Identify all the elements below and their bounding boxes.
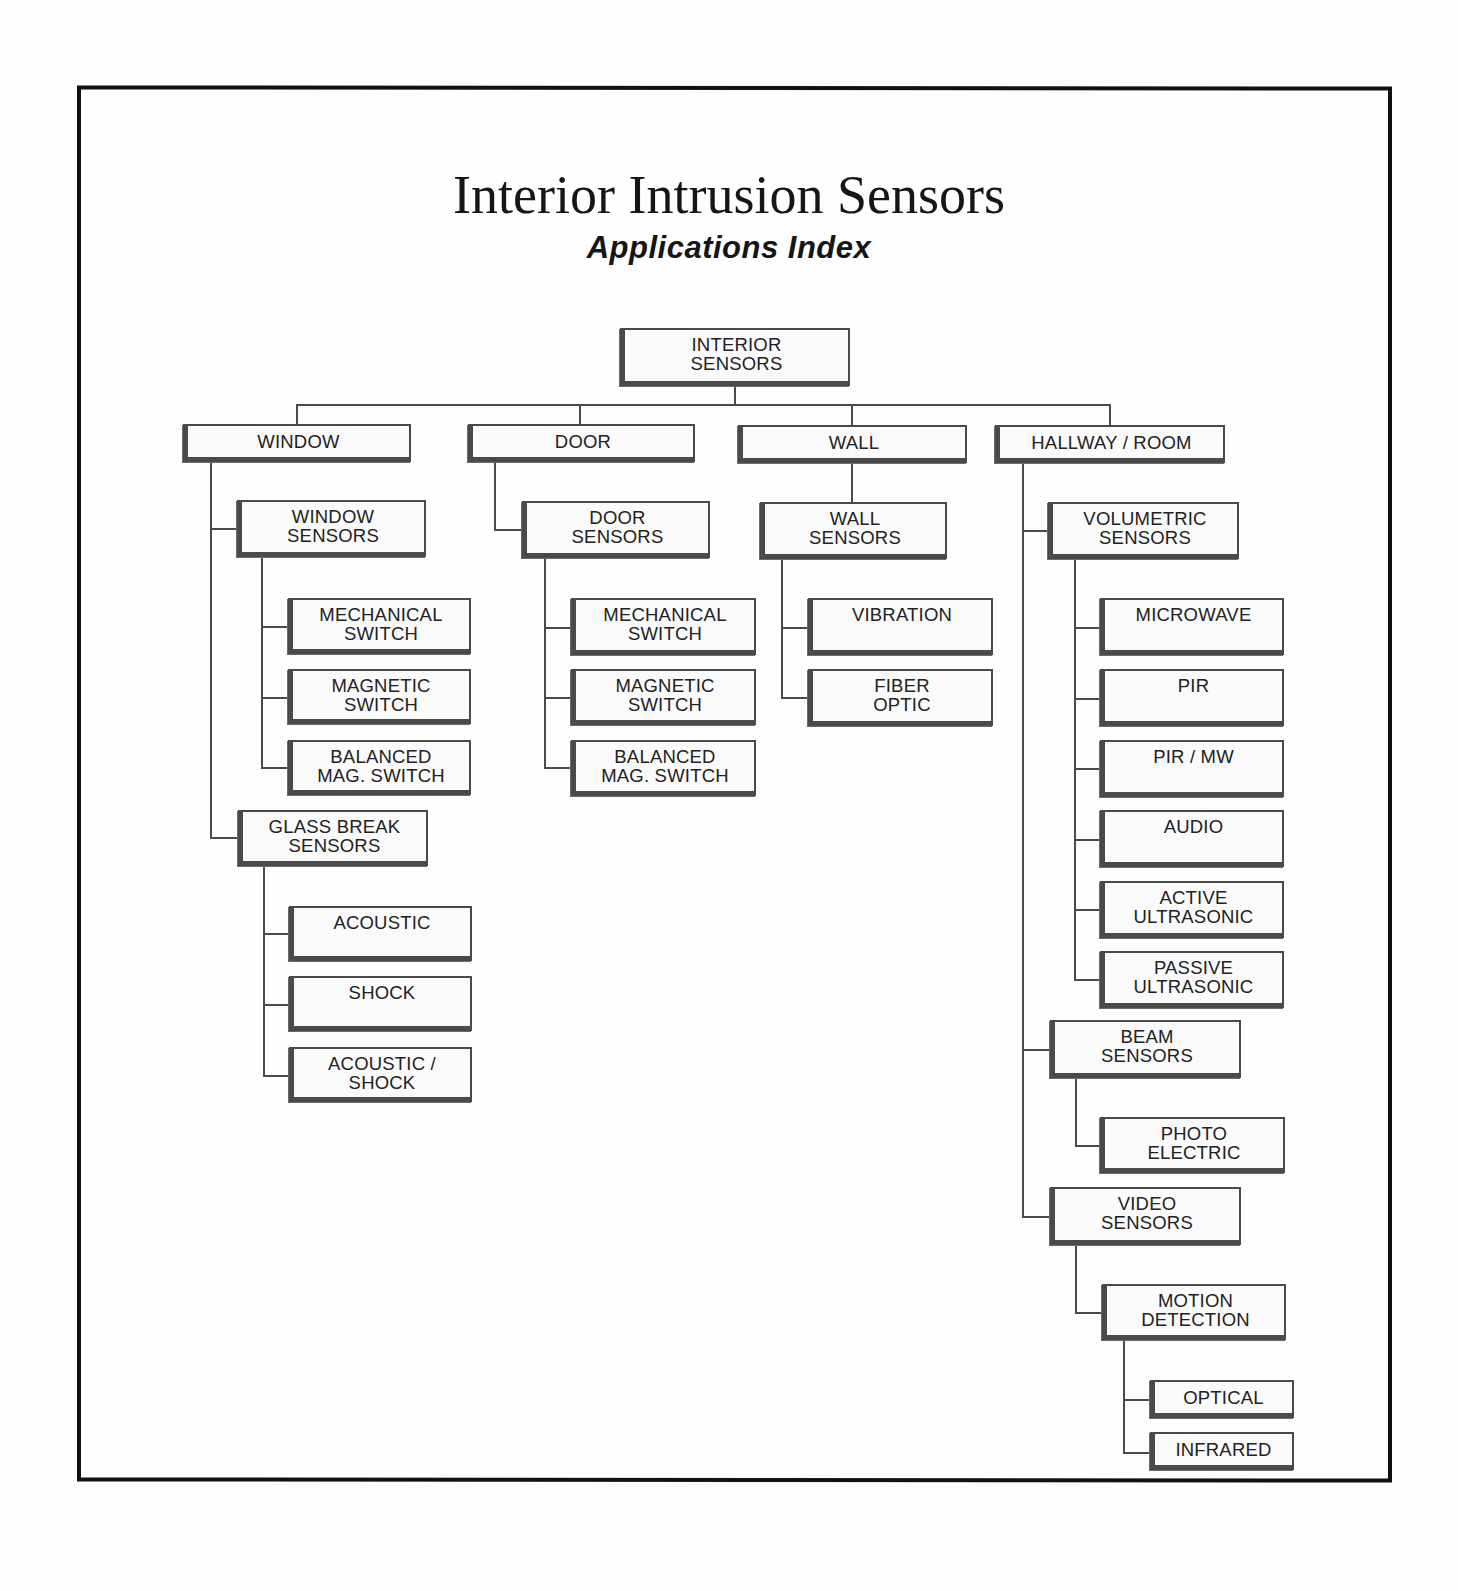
connector-line: [261, 557, 263, 768]
connector-line: [263, 933, 290, 935]
node-interior-sensors: INTERIOR SENSORS: [620, 328, 850, 386]
node-hallway-room: HALLWAY / ROOM: [995, 425, 1225, 463]
connector-line: [296, 404, 1111, 406]
connector-line: [1074, 909, 1101, 911]
connector-line: [544, 767, 572, 769]
connector-line: [494, 529, 523, 531]
node-pir-mw: PIR / MW: [1100, 740, 1284, 797]
connector-line: [1022, 463, 1024, 1218]
connector-line: [781, 697, 809, 699]
node-glass-break-sensors: GLASS BREAK SENSORS: [238, 810, 428, 866]
node-window-balanced-mag-switch: BALANCED MAG. SWITCH: [288, 740, 471, 795]
connector-line: [1075, 1145, 1101, 1147]
node-door-mechanical-switch: MECHANICAL SWITCH: [571, 598, 756, 655]
connector-line: [1074, 627, 1101, 629]
node-acoustic: ACOUSTIC: [289, 906, 472, 961]
node-microwave: MICROWAVE: [1100, 598, 1284, 655]
connector-line: [1074, 979, 1101, 981]
node-acoustic-shock: ACOUSTIC / SHOCK: [289, 1047, 472, 1102]
connector-line: [544, 627, 572, 629]
connector-line: [1022, 1216, 1051, 1218]
connector-line: [1109, 404, 1111, 426]
node-pir: PIR: [1100, 669, 1284, 726]
connector-line: [1123, 1399, 1151, 1401]
connector-line: [851, 404, 853, 426]
node-passive-ultrasonic: PASSIVE ULTRASONIC: [1100, 951, 1284, 1008]
node-motion-detection: MOTION DETECTION: [1102, 1284, 1286, 1340]
connector-line: [263, 866, 265, 1076]
connector-line: [494, 462, 496, 531]
connector-line: [734, 386, 736, 406]
connector-line: [1123, 1452, 1151, 1454]
node-window: WINDOW: [183, 424, 411, 462]
node-video-sensors: VIDEO SENSORS: [1050, 1187, 1241, 1245]
connector-line: [1075, 1245, 1077, 1313]
connector-line: [1075, 1312, 1103, 1314]
node-wall: WALL: [738, 425, 967, 463]
diagram-title: Interior Intrusion Sensors: [0, 168, 1458, 222]
node-vibration: VIBRATION: [808, 598, 993, 655]
node-door-magnetic-switch: MAGNETIC SWITCH: [571, 669, 756, 725]
connector-line: [544, 558, 546, 768]
node-wall-sensors: WALL SENSORS: [760, 502, 947, 559]
node-window-magnetic-switch: MAGNETIC SWITCH: [288, 669, 471, 724]
node-door: DOOR: [468, 424, 695, 462]
connector-line: [1123, 1340, 1125, 1453]
node-audio: AUDIO: [1100, 810, 1284, 867]
connector-line: [261, 697, 289, 699]
connector-line: [544, 697, 572, 699]
connector-line: [1022, 530, 1049, 532]
node-door-balanced-mag-switch: BALANCED MAG. SWITCH: [571, 740, 756, 796]
connector-line: [210, 528, 238, 530]
node-window-mechanical-switch: MECHANICAL SWITCH: [288, 598, 471, 654]
connector-line: [210, 837, 239, 839]
connector-line: [781, 627, 809, 629]
connector-line: [1074, 839, 1101, 841]
node-window-sensors: WINDOW SENSORS: [237, 500, 426, 557]
connector-line: [263, 1004, 290, 1006]
node-optical: OPTICAL: [1150, 1380, 1294, 1418]
node-door-sensors: DOOR SENSORS: [522, 501, 710, 558]
node-volumetric-sensors: VOLUMETRIC SENSORS: [1048, 502, 1239, 559]
connector-line: [1075, 1078, 1077, 1146]
connector-line: [1074, 698, 1101, 700]
connector-line: [261, 626, 289, 628]
node-shock: SHOCK: [289, 976, 472, 1031]
connector-line: [263, 1075, 290, 1077]
node-fiber-optic: FIBER OPTIC: [808, 669, 993, 726]
diagram-subtitle: Applications Index: [0, 232, 1458, 263]
connector-line: [1074, 768, 1101, 770]
connector-line: [579, 404, 581, 425]
node-beam-sensors: BEAM SENSORS: [1050, 1020, 1241, 1078]
connector-line: [261, 767, 289, 769]
connector-line: [851, 463, 853, 503]
node-active-ultrasonic: ACTIVE ULTRASONIC: [1100, 881, 1284, 938]
connector-line: [1022, 1049, 1051, 1051]
connector-line: [210, 462, 212, 839]
node-photo-electric: PHOTO ELECTRIC: [1100, 1117, 1285, 1173]
node-infrared: INFRARED: [1150, 1432, 1294, 1470]
connector-line: [296, 404, 298, 425]
